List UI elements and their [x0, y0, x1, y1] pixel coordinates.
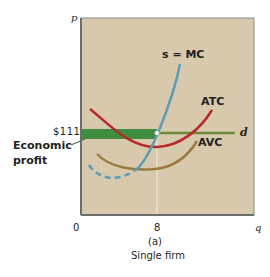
- profit-label-line1: Economic: [13, 139, 72, 152]
- chart-caption: Single firm: [131, 250, 185, 261]
- price-tick-label: $111: [53, 126, 80, 137]
- y-axis-label: p: [71, 12, 77, 23]
- origin-label: 0: [73, 222, 79, 233]
- panel-label: (a): [148, 236, 162, 247]
- demand-label: d: [240, 126, 248, 139]
- equilibrium-point: [155, 131, 160, 136]
- profit-label-line2: profit: [13, 154, 47, 167]
- avc-label: AVC: [198, 136, 222, 149]
- x-axis-label: q: [255, 222, 261, 233]
- mc-label: s = MC: [162, 48, 204, 61]
- atc-label: ATC: [201, 95, 224, 108]
- q-tick-label: 8: [154, 222, 160, 233]
